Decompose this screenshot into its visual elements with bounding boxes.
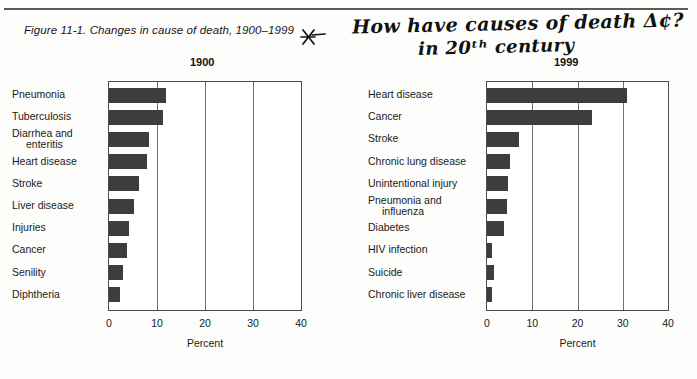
plot-area-1900 — [108, 81, 302, 311]
figure-page: Figure 11-1. Changes in cause of death, … — [0, 0, 697, 379]
x-axis-title-1999: Percent — [559, 337, 595, 349]
x-tick-label: 30 — [617, 317, 629, 329]
x-axis-title-1900: Percent — [187, 337, 223, 349]
category-label: Senility — [12, 267, 104, 279]
category-label: Heart disease — [368, 89, 480, 101]
chart-title-1999: 1999 — [554, 56, 578, 68]
category-labels-1999: Heart diseaseCancerStrokeChronic lung di… — [368, 81, 480, 311]
plot-wrap-1999: Heart diseaseCancerStrokeChronic lung di… — [368, 81, 686, 311]
bar — [109, 243, 127, 258]
bar — [487, 154, 510, 169]
x-tick-label: 20 — [199, 317, 211, 329]
bar — [487, 176, 508, 191]
category-label: Cancer — [368, 111, 480, 123]
category-label: Pneumonia — [12, 89, 104, 101]
bar — [487, 265, 494, 280]
bar — [487, 199, 507, 214]
bar — [487, 88, 627, 103]
bar — [109, 88, 166, 103]
bar — [487, 132, 519, 147]
category-label: HIV infection — [368, 244, 480, 256]
x-tick-label: 10 — [151, 317, 163, 329]
gridline-30 — [623, 82, 624, 310]
plot-wrap-1900: PneumoniaTuberculosisDiarrhea andenterit… — [12, 81, 342, 311]
bar — [109, 199, 134, 214]
category-label: Chronic lung disease — [368, 156, 480, 168]
category-label: Unintentional injury — [368, 178, 480, 190]
category-label: Pneumonia andinfluenza — [368, 195, 480, 218]
bar — [109, 154, 147, 169]
gridline-20 — [205, 82, 206, 310]
chart-title-1900: 1900 — [190, 56, 214, 68]
x-tick-label: 0 — [484, 317, 490, 329]
bar — [487, 287, 492, 302]
bar — [487, 110, 592, 125]
category-labels-1900: PneumoniaTuberculosisDiarrhea andenterit… — [12, 81, 104, 311]
category-label: Diabetes — [368, 222, 480, 234]
category-label: Tuberculosis — [12, 111, 104, 123]
bar — [109, 265, 123, 280]
plot-area-1999 — [486, 81, 669, 311]
x-tick-label: 10 — [526, 317, 538, 329]
x-tick-label: 40 — [295, 317, 307, 329]
category-label: Heart disease — [12, 156, 104, 168]
bar — [487, 221, 504, 236]
handwritten-note-line-1: How have causes of death Δ¢? — [352, 9, 684, 38]
star-asterisk-mark — [299, 26, 329, 50]
x-tick-label: 0 — [106, 317, 112, 329]
chart-1900: 1900 PneumoniaTuberculosisDiarrhea anden… — [12, 56, 342, 368]
category-label: Diarrhea andenteritis — [12, 128, 104, 151]
category-label: Chronic liver disease — [368, 289, 480, 301]
category-label: Stroke — [12, 178, 104, 190]
x-tick-label: 40 — [662, 317, 674, 329]
gridline-30 — [253, 82, 254, 310]
chart-1999: 1999 Heart diseaseCancerStrokeChronic lu… — [368, 56, 686, 368]
category-label: Stroke — [368, 133, 480, 145]
category-label: Injuries — [12, 222, 104, 234]
x-tick-label: 30 — [247, 317, 259, 329]
category-label: Diphtheria — [12, 289, 104, 301]
x-tick-label: 20 — [572, 317, 584, 329]
category-label: Liver disease — [12, 200, 104, 212]
bar — [109, 176, 139, 191]
bar — [109, 132, 149, 147]
figure-caption: Figure 11-1. Changes in cause of death, … — [24, 24, 294, 36]
bar — [109, 110, 163, 125]
category-label: Suicide — [368, 267, 480, 279]
bar — [109, 221, 129, 236]
bar — [109, 287, 120, 302]
bar — [487, 243, 492, 258]
category-label: Cancer — [12, 244, 104, 256]
